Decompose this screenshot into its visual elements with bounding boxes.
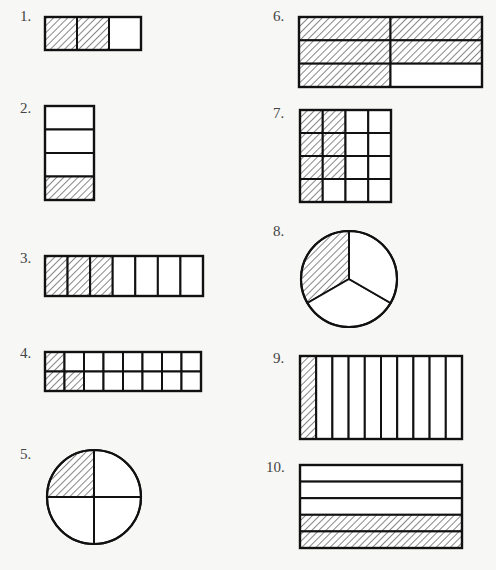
unshaded-cell	[113, 256, 136, 296]
shaded-cell	[300, 515, 462, 532]
shaded-cell	[300, 156, 323, 179]
unshaded-cell	[182, 352, 202, 372]
unshaded-cell	[300, 465, 462, 482]
shaded-cell	[300, 356, 316, 439]
unshaded-cell	[182, 372, 202, 392]
figure-4	[45, 352, 201, 391]
unshaded-cell	[413, 356, 429, 439]
shaded-cell	[300, 179, 323, 202]
unshaded-cell	[158, 256, 181, 296]
unshaded-cell	[162, 352, 182, 372]
figure-7	[300, 110, 391, 202]
unshaded-cell	[368, 110, 391, 133]
fraction-diagrams-canvas	[0, 0, 496, 570]
shaded-cell	[45, 256, 68, 296]
unshaded-cell	[143, 372, 163, 392]
shaded-cell	[323, 133, 346, 156]
unshaded-cell	[84, 372, 104, 392]
unshaded-cell	[365, 356, 381, 439]
shaded-cell	[391, 40, 483, 63]
figure-9	[300, 356, 462, 439]
shaded-cell	[300, 531, 462, 548]
unshaded-cell	[391, 64, 483, 87]
unshaded-cell	[346, 133, 369, 156]
figure-10	[300, 465, 462, 548]
figure-6	[299, 17, 482, 87]
unshaded-cell	[123, 372, 143, 392]
unshaded-cell	[104, 372, 124, 392]
unshaded-cell	[430, 356, 446, 439]
shaded-cell	[45, 17, 77, 50]
figure-1	[45, 17, 141, 50]
unshaded-cell	[300, 482, 462, 499]
unshaded-cell	[84, 352, 104, 372]
unshaded-cell	[180, 256, 203, 296]
unshaded-cell	[323, 179, 346, 202]
unshaded-cell	[45, 130, 94, 154]
shaded-cell	[391, 17, 483, 40]
figure-3	[45, 256, 203, 296]
unshaded-cell	[109, 17, 141, 50]
unshaded-cell	[446, 356, 462, 439]
shaded-cell	[45, 352, 65, 372]
shaded-cell	[77, 17, 109, 50]
shaded-cell	[300, 133, 323, 156]
unshaded-cell	[368, 156, 391, 179]
shaded-cell	[323, 156, 346, 179]
shaded-cell	[299, 64, 391, 87]
shaded-cell	[45, 177, 94, 201]
unshaded-cell	[300, 498, 462, 515]
shaded-cell	[300, 110, 323, 133]
figure-8	[301, 231, 397, 327]
unshaded-cell	[368, 133, 391, 156]
unshaded-cell	[346, 179, 369, 202]
shaded-cell	[90, 256, 113, 296]
figure-2	[45, 106, 94, 200]
unshaded-cell	[162, 372, 182, 392]
shaded-cell	[68, 256, 91, 296]
unshaded-cell	[397, 356, 413, 439]
unshaded-cell	[381, 356, 397, 439]
unshaded-cell	[316, 356, 332, 439]
shaded-cell	[299, 17, 391, 40]
shaded-cell	[45, 372, 65, 392]
shaded-cell	[323, 110, 346, 133]
unshaded-cell	[135, 256, 158, 296]
unshaded-cell	[143, 352, 163, 372]
unshaded-cell	[346, 110, 369, 133]
unshaded-cell	[368, 179, 391, 202]
unshaded-cell	[123, 352, 143, 372]
shaded-cell	[65, 372, 85, 392]
unshaded-cell	[346, 156, 369, 179]
unshaded-cell	[65, 352, 85, 372]
unshaded-cell	[104, 352, 124, 372]
figure-5	[47, 450, 141, 544]
unshaded-cell	[349, 356, 365, 439]
unshaded-cell	[45, 106, 94, 130]
unshaded-cell	[332, 356, 348, 439]
shaded-cell	[299, 40, 391, 63]
unshaded-cell	[45, 153, 94, 177]
